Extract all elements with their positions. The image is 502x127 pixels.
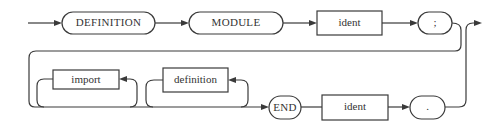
label-import: import [53, 74, 119, 85]
arrow-icon [402, 104, 410, 110]
label-end-keyword: END [269, 102, 301, 113]
arrow-icon [54, 20, 62, 26]
arrow-icon [261, 104, 269, 110]
label-definition: definition [163, 74, 228, 85]
arrow-icon [474, 20, 482, 26]
label-semicolon: ; [418, 17, 452, 28]
label-ident-2: ident [322, 101, 388, 112]
arrow-icon [410, 20, 418, 26]
arrow-icon [181, 20, 189, 26]
label-definition-keyword: DEFINITION [62, 17, 155, 28]
arrow-icon [228, 77, 236, 83]
label-module-keyword: MODULE [189, 17, 283, 28]
label-ident-1: ident [317, 17, 382, 28]
label-period: . [410, 101, 445, 112]
arrow-icon [309, 20, 317, 26]
arrow-icon [119, 76, 127, 82]
